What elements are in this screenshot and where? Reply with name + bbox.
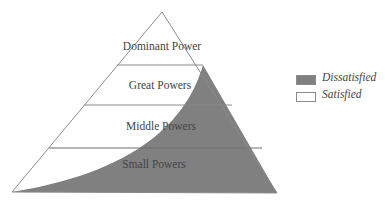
tier-label-small: Small Powers (122, 158, 186, 170)
legend-label-satisfied: Satisfied (322, 88, 362, 100)
legend-swatch-satisfied (296, 92, 316, 102)
tier-label-great: Great Powers (129, 79, 191, 91)
legend-label-dissatisfied: Dissatisfied (322, 71, 376, 83)
tier-label-middle: Middle Powers (126, 120, 196, 132)
legend-swatch-dissatisfied (296, 75, 316, 85)
pyramid-diagram (0, 0, 385, 204)
tier-label-dominant: Dominant Power (123, 40, 201, 52)
